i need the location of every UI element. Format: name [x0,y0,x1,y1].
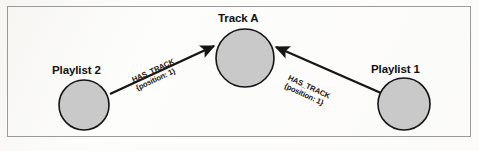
figure-container: Track A Playlist 2 Playlist 1 HAS_TRACK … [0,0,479,151]
node-label-playlist-2: Playlist 2 [52,64,101,76]
node-circle-track-a[interactable] [216,29,274,87]
node-label-playlist-1: Playlist 1 [371,63,420,75]
node-circle-playlist-1[interactable] [378,78,430,130]
node-circle-playlist-2[interactable] [59,80,109,130]
node-label-track-a: Track A [218,12,258,24]
